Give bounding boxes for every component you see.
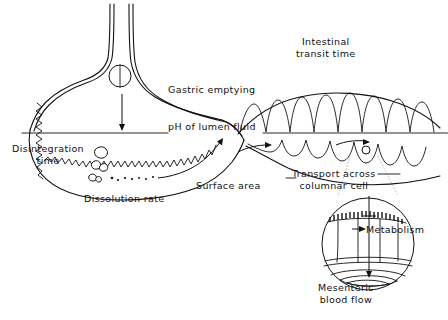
dissolved-drug-dots bbox=[111, 176, 154, 181]
gi-absorption-diagram: Intestinal transit time Gastric emptying… bbox=[0, 0, 448, 320]
upper-intestinal-villi bbox=[238, 93, 440, 134]
label-dissolution-rate: Dissolution rate bbox=[84, 193, 164, 205]
label-transport-across-columnar-cell: Transport across columnar cell bbox=[292, 168, 376, 191]
label-intestinal-transit-time-line1: Intestinal bbox=[296, 36, 355, 48]
label-intestinal-transit-time: Intestinal transit time bbox=[296, 36, 355, 59]
label-transport-across-line2: columnar cell bbox=[292, 180, 376, 192]
metabolism-arrow bbox=[352, 226, 366, 232]
columnar-cell-inset bbox=[322, 196, 414, 290]
curved-emptying-arrow bbox=[158, 138, 223, 178]
label-ph-of-lumen-fluid: pH of lumen fluid bbox=[168, 121, 256, 133]
absorbed-drug-particle bbox=[362, 146, 370, 154]
label-metabolism: Metabolism bbox=[366, 224, 424, 236]
esophagus-tube bbox=[30, 4, 226, 131]
stomach-rugae-zigzag bbox=[36, 103, 216, 179]
downward-fall-arrow bbox=[119, 94, 125, 131]
label-mesenteric-blood-flow-line2: blood flow bbox=[318, 294, 374, 306]
tablet-dosage-form bbox=[109, 65, 131, 87]
label-intestinal-transit-time-line2: transit time bbox=[296, 48, 355, 60]
label-disintegration-time: Disintegration time bbox=[12, 143, 84, 166]
disintegrated-granules bbox=[89, 147, 108, 182]
label-disintegration-time-line2: time bbox=[12, 155, 84, 167]
label-gastric-emptying: Gastric emptying bbox=[168, 84, 255, 96]
label-disintegration-time-line1: Disintegration bbox=[12, 143, 84, 155]
transcellular-transport-arrow bbox=[362, 196, 376, 278]
label-surface-area: Surface area bbox=[196, 180, 261, 192]
label-mesenteric-blood-flow: Mesenteric blood flow bbox=[318, 282, 374, 305]
label-transport-across-line1: Transport across bbox=[292, 168, 376, 180]
intestinal-transit-arrow-right bbox=[336, 139, 370, 145]
label-mesenteric-blood-flow-line1: Mesenteric bbox=[318, 282, 374, 294]
brush-border-microvilli bbox=[328, 211, 406, 224]
